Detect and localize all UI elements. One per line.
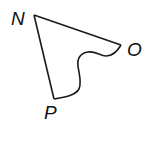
edge-n-o [34, 15, 121, 45]
vertex-label-n: N [11, 9, 25, 28]
vertex-label-o: O [127, 40, 142, 59]
edge-n-p [34, 15, 54, 99]
edge-o-p-curve [54, 45, 121, 99]
vertex-label-p: P [44, 103, 57, 122]
